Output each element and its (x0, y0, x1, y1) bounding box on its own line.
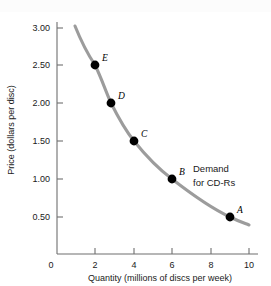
x-axis-title: Quantity (millions of discs per week) (88, 273, 232, 283)
demand-curve-figure: E D C B A 0 0.50 1.00 1.50 2.00 2.50 3.0… (0, 0, 271, 286)
x-tick-label-10: 10 (244, 260, 254, 270)
data-point-E (91, 61, 100, 70)
data-point-A (226, 213, 235, 222)
x-axis-ticks (95, 248, 249, 254)
data-points (91, 61, 235, 222)
data-point-B (168, 175, 177, 184)
data-point-D (107, 99, 116, 108)
point-label-E: E (101, 53, 108, 63)
demand-annotation-line2: for CD-Rs (193, 177, 235, 188)
x-tick-label-6: 6 (169, 260, 174, 270)
y-axis-title: Price (dollars per disc) (6, 85, 16, 175)
y-tick-label-0: 0 (48, 260, 53, 270)
x-tick-label-8: 8 (208, 260, 213, 270)
y-tick-label-1.50: 1.50 (32, 136, 50, 146)
x-tick-label-4: 4 (131, 260, 136, 270)
y-tick-label-2.00: 2.00 (32, 98, 50, 108)
y-tick-label-2.50: 2.50 (32, 60, 50, 70)
y-tick-label-3.00: 3.00 (32, 23, 50, 33)
data-point-C (130, 137, 139, 146)
x-tick-label-2: 2 (92, 260, 97, 270)
point-label-A: A (236, 205, 243, 215)
chart-canvas: E D C B A 0 0.50 1.00 1.50 2.00 2.50 3.0… (0, 0, 271, 286)
demand-annotation-line1: Demand (193, 163, 229, 174)
y-axis-ticks (57, 28, 63, 217)
y-tick-label-0.50: 0.50 (32, 212, 50, 222)
point-label-C: C (141, 129, 148, 139)
point-label-D: D (117, 91, 125, 101)
y-tick-label-1.00: 1.00 (32, 174, 50, 184)
point-label-B: B (179, 167, 185, 177)
